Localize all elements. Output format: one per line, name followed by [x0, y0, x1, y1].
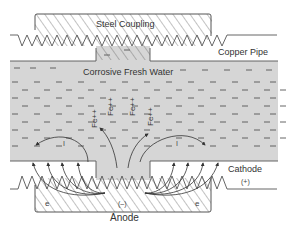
- fe-ion-label: Fe++: [106, 97, 115, 116]
- electron-label-left: e: [45, 200, 49, 208]
- anode-sign: (–): [118, 200, 127, 207]
- current-label-right: I: [176, 140, 178, 147]
- water-label: Corrosive Fresh Water: [83, 68, 173, 77]
- copper-pipe-label: Copper Pipe: [218, 48, 268, 57]
- fe-ion-label: Fe++: [146, 107, 155, 126]
- cathode-label: Cathode: [228, 165, 262, 174]
- galvanic-corrosion-diagram: [0, 0, 287, 229]
- fe-ion-label: Fe++: [90, 109, 99, 128]
- cathode-sign: (+): [241, 178, 250, 185]
- steel-coupling-label: Steel Coupling: [96, 20, 155, 29]
- electron-label-right: e: [195, 200, 199, 208]
- anode-label: Anode: [110, 213, 139, 223]
- current-label-left: I: [63, 140, 65, 147]
- fe-ion-label: Fe++: [128, 97, 137, 116]
